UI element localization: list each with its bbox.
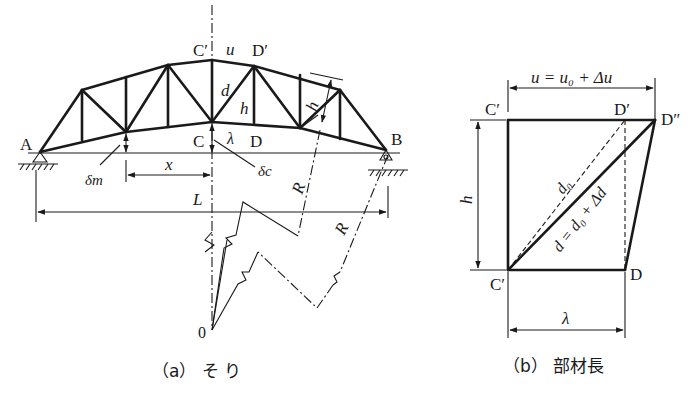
diagonal-d [508, 120, 655, 270]
label-lambda: λ [226, 130, 234, 147]
label-a: A [20, 135, 33, 154]
delta-m-leader [100, 145, 120, 165]
label-l: L [192, 190, 202, 209]
caption-a: （a） そ り [152, 361, 241, 381]
label-d-double-prime: D″ [661, 110, 680, 129]
support-a [18, 152, 58, 170]
label-d-prime: D′ [614, 100, 630, 119]
label-u: u [226, 40, 235, 59]
label-delta-c: δc [258, 163, 272, 179]
label-d: D [250, 132, 262, 151]
h-side-leader [300, 115, 318, 128]
bottom-chord [40, 122, 386, 152]
label-d-prime: D′ [252, 41, 268, 60]
label-h-vertical: h [240, 99, 249, 118]
label-b: B [391, 130, 402, 149]
support-b [368, 150, 408, 176]
label-d-diagonal: d [221, 81, 230, 100]
label-origin: 0 [198, 324, 206, 341]
radius-lines [205, 130, 388, 330]
label-x: x [164, 155, 173, 174]
deformed-vertical [625, 120, 655, 270]
label-r2: R [330, 219, 352, 239]
label-u-equation: u = u₀ + Δu [531, 68, 612, 87]
label-delta-m: δm [85, 172, 103, 188]
h-ext-line [310, 73, 343, 80]
label-d0: d₀ [552, 176, 574, 197]
caption-b: （b） 部材長 [503, 356, 604, 376]
label-lambda: λ [561, 309, 569, 328]
label-d: D [630, 265, 642, 284]
label-c-prime-top: C′ [485, 100, 500, 119]
label-h: h [457, 196, 476, 205]
label-r1: R [288, 180, 310, 198]
label-h-side: h [302, 99, 323, 113]
figure-a-camber-truss [18, 5, 408, 330]
label-c-prime: C′ [193, 41, 208, 60]
label-c-prime-bottom: C′ [490, 275, 505, 294]
label-c: C [193, 132, 204, 151]
